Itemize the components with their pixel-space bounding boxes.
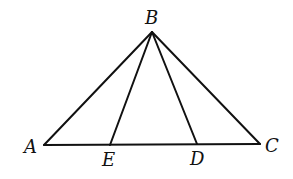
segment-bc [152, 32, 260, 144]
point-label-e: E [101, 149, 115, 170]
segments-group [44, 32, 260, 145]
vertex-label-c: C [265, 135, 279, 156]
segment-be [110, 32, 152, 145]
triangle-diagram: A B C D E [0, 0, 293, 179]
segment-ab [44, 32, 152, 145]
vertex-label-b: B [144, 7, 158, 28]
vertex-label-a: A [22, 136, 37, 157]
segment-ac [44, 144, 260, 145]
point-label-d: D [189, 148, 205, 169]
segment-bd [152, 32, 197, 144]
